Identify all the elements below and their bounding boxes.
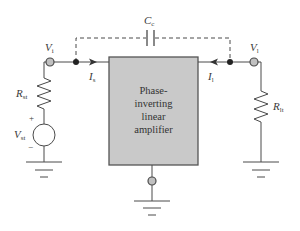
input-terminal: [46, 58, 54, 66]
output-voltage-label: Vl: [250, 41, 259, 55]
input-side: [26, 62, 109, 177]
source-resistor: [37, 78, 51, 109]
input-voltage-label: Vi: [45, 41, 54, 55]
output-terminal: [250, 58, 258, 66]
common-ground: [134, 165, 170, 215]
source-resistor-label: Rst: [15, 87, 27, 101]
source-plus-label: +: [29, 113, 34, 123]
common-terminal: [148, 177, 156, 185]
output-junction-dot: [227, 59, 233, 65]
circuit-diagram: Cc Phase- inverting linear amplifier Vi …: [0, 0, 300, 231]
amplifier-label-line3: linear: [142, 111, 166, 122]
output-current-label: Il: [207, 70, 214, 84]
load-resistor-label: Rlt: [272, 100, 284, 114]
amplifier-label-line4: amplifier: [134, 124, 173, 135]
amplifier-label-line2: inverting: [135, 98, 174, 109]
input-junction-dot: [73, 59, 79, 65]
source-minus-label: −: [28, 142, 33, 152]
voltage-source: [33, 124, 55, 146]
amplifier-block: Phase- inverting linear amplifier: [109, 57, 198, 165]
load-resistor: [254, 91, 268, 122]
capacitor-label: Cc: [144, 14, 154, 28]
voltage-source-label: Vst: [14, 128, 25, 142]
input-current-label: Is: [88, 70, 96, 84]
amplifier-label-line1: Phase-: [140, 85, 168, 96]
